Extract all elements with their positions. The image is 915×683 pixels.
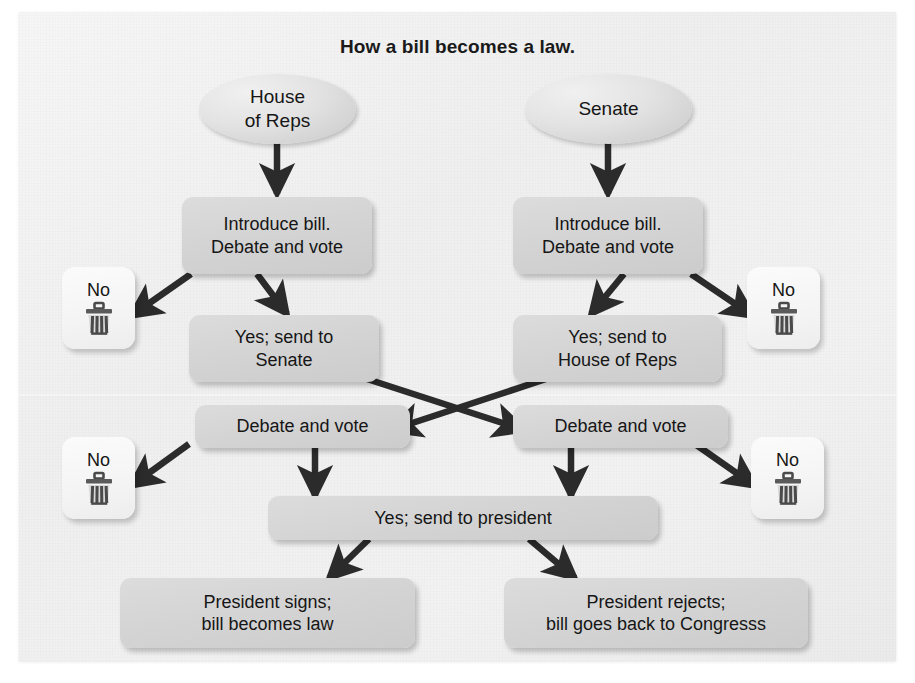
node-no-house-introduce[interactable]: No — [62, 267, 135, 349]
node-no-senate-introduce[interactable]: No — [747, 267, 820, 349]
edge-senate-intro-to-no — [691, 274, 753, 316]
node-senate-debate-and-vote[interactable]: Debate and vote — [513, 405, 728, 448]
trash-icon — [767, 301, 801, 339]
trash-icon — [771, 471, 805, 509]
node-senate-yes-send-to-house[interactable]: Yes; send to House of Reps — [513, 315, 722, 382]
diagram-canvas: How a bill becomes a law. — [19, 12, 896, 661]
edge-senate-debate-to-no — [695, 444, 755, 486]
edge-house-intro-to-no — [131, 274, 191, 316]
edge-senate-intro-to-yes — [591, 274, 624, 314]
trash-icon — [82, 471, 116, 509]
diagram-page: How a bill becomes a law. — [0, 0, 915, 683]
edge-president-to-rejects — [529, 539, 575, 578]
node-senate-introduce-bill[interactable]: Introduce bill. Debate and vote — [513, 197, 703, 274]
node-yes-send-to-president[interactable]: Yes; send to president — [268, 496, 658, 540]
no-label: No — [87, 281, 110, 299]
trash-icon — [82, 301, 116, 339]
node-house-of-reps[interactable]: House of Reps — [199, 74, 356, 144]
node-house-yes-send-to-senate[interactable]: Yes; send to Senate — [189, 315, 379, 382]
node-no-house-debate[interactable]: No — [62, 437, 135, 519]
no-label: No — [776, 451, 799, 469]
edge-president-to-signs — [329, 539, 369, 578]
node-president-rejects[interactable]: President rejects; bill goes back to Con… — [504, 578, 808, 648]
no-label: No — [772, 281, 795, 299]
edge-house-debate-to-no — [131, 444, 189, 486]
node-president-signs[interactable]: President signs; bill becomes law — [120, 578, 415, 648]
node-house-debate-and-vote[interactable]: Debate and vote — [195, 405, 410, 448]
node-no-senate-debate[interactable]: No — [751, 437, 824, 519]
edge-house-intro-to-yes — [257, 274, 287, 314]
node-house-introduce-bill[interactable]: Introduce bill. Debate and vote — [182, 197, 372, 274]
node-senate[interactable]: Senate — [525, 74, 692, 144]
page-title: How a bill becomes a law. — [19, 36, 896, 58]
no-label: No — [87, 451, 110, 469]
